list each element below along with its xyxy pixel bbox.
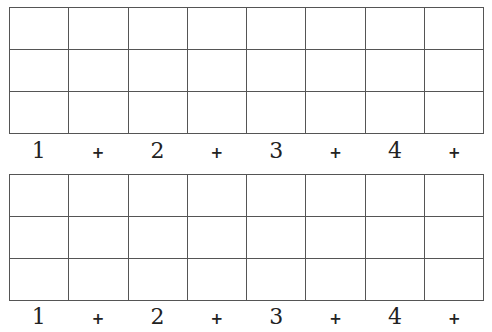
count-label: + bbox=[306, 138, 365, 163]
count-label: + bbox=[425, 138, 484, 163]
count-label: 2 bbox=[128, 304, 187, 329]
count-label: 2 bbox=[128, 138, 187, 163]
count-label: 3 bbox=[247, 138, 306, 163]
count-label: + bbox=[425, 304, 484, 329]
rhythm-grid-1 bbox=[9, 7, 484, 134]
count-label: + bbox=[306, 304, 365, 329]
rhythm-grid-2 bbox=[9, 174, 484, 301]
count-label: + bbox=[68, 304, 127, 329]
count-label: + bbox=[68, 138, 127, 163]
count-label: + bbox=[187, 304, 246, 329]
count-label: 4 bbox=[365, 304, 424, 329]
count-label: 4 bbox=[365, 138, 424, 163]
count-label: + bbox=[187, 138, 246, 163]
count-label: 1 bbox=[9, 304, 68, 329]
count-label: 3 bbox=[247, 304, 306, 329]
count-labels-1: 1 + 2 + 3 + 4 + bbox=[9, 138, 484, 163]
count-label: 1 bbox=[9, 138, 68, 163]
count-labels-2: 1 + 2 + 3 + 4 + bbox=[9, 304, 484, 329]
